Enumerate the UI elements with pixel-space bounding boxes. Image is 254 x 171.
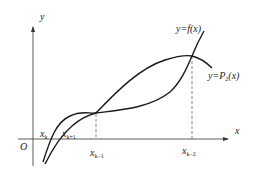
x-axis-label: x [235,126,239,136]
curve-f [43,31,204,162]
point-label-xk-2: xk−2 [182,146,196,157]
curve-f-label: y=f(x) [176,24,201,34]
y-axis-label: y [40,12,44,22]
point-label-xk+1: xk+1 [62,129,76,140]
point-label-xk: xk [40,129,47,140]
curve-p2-label: y=P2(x) [208,71,239,82]
origin-label: O [20,142,27,152]
point-label-xk-1: xk−1 [90,148,104,159]
diagram-canvas [0,0,254,171]
